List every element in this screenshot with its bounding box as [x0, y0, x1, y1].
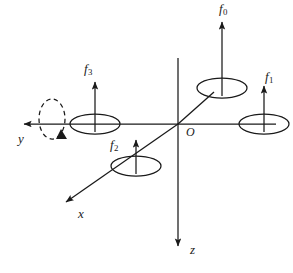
force-label-f2: f2 [110, 138, 118, 153]
rotation-indicator-arrowhead [56, 129, 67, 139]
origin-label: O [186, 126, 195, 138]
force-label-f1: f1 [265, 70, 273, 85]
axis-label-z: z [190, 243, 195, 256]
axis-line-x [66, 124, 178, 202]
axis-label-x: x [78, 207, 84, 220]
diagram-canvas [0, 0, 293, 273]
quadrotor-frame-diagram: f0 f1 f2 f3 y x z O [0, 0, 293, 273]
force-label-f0: f0 [219, 2, 227, 17]
force-label-f3: f3 [84, 62, 92, 77]
axis-label-y: y [18, 132, 24, 145]
